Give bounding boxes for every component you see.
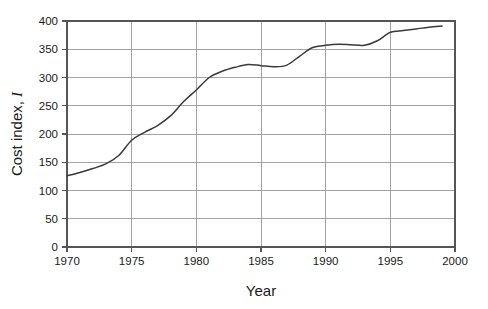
data-series-line bbox=[67, 26, 442, 176]
y-tick-label: 400 bbox=[39, 15, 58, 27]
x-tick-label: 1990 bbox=[313, 255, 339, 267]
y-axis-title: Cost index, I bbox=[8, 91, 25, 176]
x-tick-label: 1995 bbox=[378, 255, 404, 267]
y-tick-label: 350 bbox=[39, 43, 58, 55]
y-axis-symbol: I bbox=[9, 91, 25, 98]
x-tick-label: 1970 bbox=[54, 255, 80, 267]
line-chart: 050100150200250300350400 197019751980198… bbox=[0, 0, 488, 309]
y-tick-label: 250 bbox=[39, 100, 58, 112]
x-tick-label: 1980 bbox=[184, 255, 210, 267]
y-axis-tickmarks bbox=[62, 21, 67, 247]
x-axis-tick-labels: 1970197519801985199019952000 bbox=[54, 255, 468, 267]
x-axis-tickmarks bbox=[67, 247, 455, 252]
x-axis-title: Year bbox=[246, 282, 276, 299]
y-axis-title-group: Cost index, I bbox=[8, 91, 25, 176]
y-tick-label: 100 bbox=[39, 185, 58, 197]
y-tick-label: 300 bbox=[39, 72, 58, 84]
y-tick-label: 200 bbox=[39, 128, 58, 140]
y-tick-label: 0 bbox=[52, 241, 58, 253]
x-tick-label: 1975 bbox=[119, 255, 145, 267]
y-tick-label: 150 bbox=[39, 156, 58, 168]
x-tick-label: 1985 bbox=[248, 255, 274, 267]
x-tick-label: 2000 bbox=[442, 255, 468, 267]
chart-container: 050100150200250300350400 197019751980198… bbox=[0, 0, 488, 309]
y-axis-tick-labels: 050100150200250300350400 bbox=[39, 15, 58, 253]
y-tick-label: 50 bbox=[45, 213, 58, 225]
